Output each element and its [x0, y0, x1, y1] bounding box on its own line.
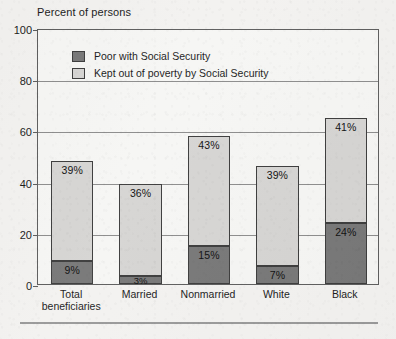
bar-value-label: 39% — [62, 165, 83, 176]
chart-legend: Poor with Social Security Kept out of po… — [72, 48, 269, 82]
y-tick-mark-80 — [33, 81, 38, 82]
bar-segment-kept-out: 43% — [188, 136, 230, 246]
x-axis-label-married: Married — [105, 289, 173, 301]
bar-value-label: 43% — [198, 140, 219, 151]
footer-divider — [20, 322, 378, 324]
bar-value-label: 39% — [267, 170, 288, 181]
legend-swatch-light-icon — [72, 68, 85, 79]
bar-black: 41%24% — [325, 118, 367, 284]
bar-segment-kept-out: 41% — [325, 118, 367, 223]
y-tick-label-20: 20 — [20, 229, 32, 241]
legend-swatch-dark-icon — [72, 51, 85, 62]
x-axis-label-line: White — [242, 289, 310, 301]
legend-item-kept-out: Kept out of poverty by Social Security — [72, 65, 269, 81]
x-axis-label-total-beneficiaries: Totalbeneficiaries — [37, 289, 105, 312]
bar-white: 39%7% — [256, 166, 298, 284]
bar-segment-poor: 24% — [325, 223, 367, 284]
bar-married: 36%3% — [119, 184, 161, 284]
y-tick-label-60: 60 — [20, 126, 32, 138]
y-tick-mark-60 — [33, 132, 38, 133]
bar-value-label: 7% — [270, 270, 285, 281]
bar-segment-poor: 3% — [119, 276, 161, 284]
x-axis-label-line: Nonmarried — [174, 289, 242, 301]
x-axis-label-black: Black — [311, 289, 379, 301]
legend-item-poor: Poor with Social Security — [72, 48, 269, 64]
bar-segment-kept-out: 36% — [119, 184, 161, 276]
x-axis-label-nonmarried: Nonmarried — [174, 289, 242, 301]
bar-value-label: 3% — [134, 276, 148, 286]
bar-nonmarried: 43%15% — [188, 136, 230, 284]
y-tick-label-40: 40 — [20, 178, 32, 190]
footer-ghost-text — [22, 330, 362, 338]
bar-segment-poor: 15% — [188, 246, 230, 284]
x-axis-label-line: beneficiaries — [37, 301, 105, 313]
x-axis-label-white: White — [242, 289, 310, 301]
bar-segment-kept-out: 39% — [256, 166, 298, 266]
legend-label-kept-out: Kept out of poverty by Social Security — [94, 67, 269, 79]
y-tick-mark-0 — [33, 286, 38, 287]
x-axis-label-line: Black — [311, 289, 379, 301]
x-axis-label-line: Total — [37, 289, 105, 301]
chart-figure: Percent of persons 02040608010039%9%36%3… — [0, 0, 396, 339]
y-tick-mark-100 — [33, 30, 38, 31]
y-tick-mark-40 — [33, 184, 38, 185]
bar-total-beneficiaries: 39%9% — [51, 161, 93, 284]
bar-segment-poor: 7% — [256, 266, 298, 284]
bar-value-label: 24% — [335, 227, 356, 238]
y-tick-label-0: 0 — [26, 280, 32, 292]
y-tick-mark-20 — [33, 235, 38, 236]
x-axis-label-line: Married — [105, 289, 173, 301]
y-axis-title: Percent of persons — [37, 6, 131, 18]
y-tick-label-80: 80 — [20, 75, 32, 87]
bar-value-label: 36% — [130, 188, 151, 199]
y-tick-label-100: 100 — [14, 24, 32, 36]
legend-label-poor: Poor with Social Security — [94, 50, 210, 62]
bar-value-label: 15% — [198, 250, 219, 261]
bar-value-label: 41% — [335, 122, 356, 133]
bar-value-label: 9% — [64, 265, 79, 276]
bar-segment-poor: 9% — [51, 261, 93, 284]
bar-segment-kept-out: 39% — [51, 161, 93, 261]
